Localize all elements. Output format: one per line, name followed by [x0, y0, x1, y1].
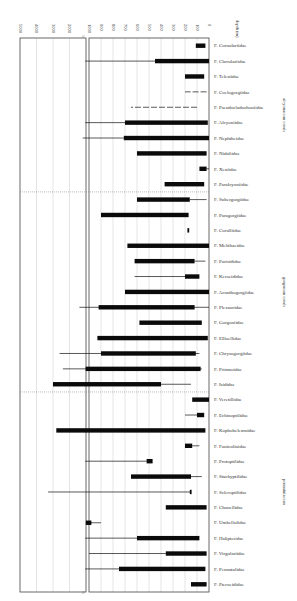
family-label: F. Gorgoniidae	[214, 320, 245, 325]
tick-label: 2000	[67, 24, 72, 34]
range-bar	[165, 182, 205, 186]
range-bar	[191, 582, 207, 586]
range-bar	[137, 151, 207, 155]
tick-label: 900	[99, 24, 104, 32]
family-label: F. Parisididae	[214, 259, 242, 264]
family-label: F. Chrysogorgiidae	[214, 351, 253, 356]
range-bar	[89, 551, 207, 555]
family-label: F. Melithaeidae	[214, 243, 246, 248]
tick-label: 700	[123, 24, 128, 32]
range-bar	[85, 567, 205, 571]
tick-label: 600	[135, 24, 140, 32]
family-label: F. Paralcyoniidae	[214, 182, 249, 187]
group-label: alcyonacean corals	[282, 98, 287, 132]
range-bar	[185, 74, 204, 78]
tick-label: 300	[171, 24, 176, 32]
family-label: F. Nephtheidae	[214, 136, 245, 141]
range-bar	[56, 428, 205, 432]
range-bar	[85, 59, 209, 63]
group-label: gorgonian corals	[282, 277, 287, 307]
family-label: F. Acanthogorgiidae	[214, 290, 255, 295]
range-bar	[166, 505, 207, 509]
group-labels: alcyonacean coralsgorgonian coralspennat…	[282, 98, 287, 506]
family-label: F. Coralliidae	[214, 228, 242, 233]
family-label: F. Nidaliidae	[214, 151, 240, 156]
axis-label: depth (m)	[235, 20, 240, 38]
family-label: F. Chunellidae	[214, 505, 244, 510]
range-bar	[139, 320, 201, 324]
family-label: F. Scleroptilidae	[214, 490, 247, 495]
tick-label: 3000	[51, 24, 56, 34]
family-label: F. Plexauridae	[214, 305, 243, 310]
range-bar	[63, 367, 202, 371]
family-label: F. Isididae	[214, 382, 235, 387]
range-bar	[137, 197, 207, 201]
range-bar	[79, 305, 209, 309]
tick-label: 500	[147, 24, 152, 32]
family-label: F. Primnoidae	[214, 367, 243, 372]
family-label: F. Umbellulidae	[214, 520, 247, 525]
family-label: F. Pteroeididae	[214, 582, 245, 587]
range-bar	[192, 397, 209, 401]
depth-range-chart: F. CornulariidaeF. ClavulariidaeF. Teles…	[0, 0, 297, 601]
range-bar	[127, 244, 209, 248]
family-label: F. Keroeididae	[214, 274, 244, 279]
group-label: pennatulacean	[282, 479, 287, 505]
family-label: F. Paragorgiidae	[214, 213, 247, 218]
tick-label: 200	[183, 24, 188, 32]
tick-label: 100	[195, 24, 200, 32]
tick-label: 800	[111, 24, 116, 32]
family-label: F. Kophobelemnidae	[214, 428, 256, 433]
range-bar	[83, 136, 209, 140]
family-label: F. Stachyptilidae	[214, 474, 248, 479]
family-label: F. Coelogorgiidae	[214, 90, 250, 95]
tick-label: 5000	[18, 24, 23, 34]
tick-label: 4000	[34, 24, 39, 34]
family-labels: F. CornulariidaeF. ClavulariidaeF. Teles…	[214, 43, 264, 587]
range-bar	[53, 382, 191, 386]
family-label: F. Ellisellidae	[214, 336, 242, 341]
tick-label: 400	[159, 24, 164, 32]
range-bar	[86, 521, 101, 525]
range-bar	[131, 474, 202, 478]
family-label: F. Telestidae	[214, 74, 240, 79]
family-label: F. Alcyoniidae	[214, 120, 244, 125]
range-bar	[101, 213, 189, 217]
family-label: F. Pennatulidae	[214, 567, 245, 572]
tick-label: 1000	[87, 24, 92, 34]
family-label: F. Cornulariidae	[214, 43, 247, 48]
family-label: F. Halipteridae	[214, 536, 244, 541]
range-bar	[125, 290, 209, 294]
range-bar	[185, 413, 204, 417]
tick-label: 0	[207, 24, 212, 27]
family-label: F. Veretillidae	[214, 397, 243, 402]
family-label: F. Protoptilidae	[214, 459, 245, 464]
axis-break: //	[82, 590, 85, 595]
range-bar	[60, 351, 200, 355]
family-label: F. Subergorgiidae	[214, 197, 250, 202]
range-bar	[85, 120, 208, 124]
family-label: F. Funiculinidae	[214, 444, 247, 449]
family-label: F. Xeniidae	[214, 167, 238, 172]
family-label: F. Virgulariidae	[214, 551, 246, 556]
family-label: F. Echinoptilidae	[214, 413, 249, 418]
range-bar	[85, 459, 152, 463]
range-bar	[135, 259, 206, 263]
range-bar	[85, 536, 199, 540]
range-bar	[135, 274, 200, 278]
range-bar	[187, 228, 189, 232]
range-bar	[97, 336, 207, 340]
family-label: F. Clavulariidae	[214, 59, 247, 64]
family-label: F. Pseudocladochoniidae	[214, 105, 264, 110]
range-bar	[199, 167, 209, 171]
range-bar	[196, 43, 206, 47]
